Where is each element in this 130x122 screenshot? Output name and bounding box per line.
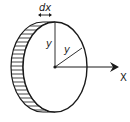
disc-diagram: dx y y X: [0, 0, 130, 122]
thickness-double-arrow-icon: [38, 13, 52, 17]
radius-diagonal-label: y: [63, 44, 71, 55]
thickness-label: dx: [39, 2, 51, 13]
radius-vertical-label: y: [45, 38, 53, 49]
center-point: [53, 65, 56, 68]
axis-label: X: [120, 72, 127, 83]
